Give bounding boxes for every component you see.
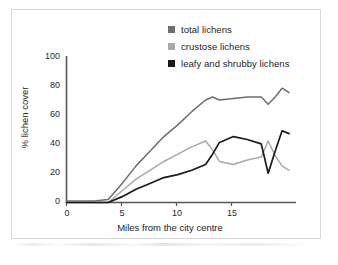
y-tick-label-0: 0 xyxy=(36,196,60,206)
y-tick-label-100: 100 xyxy=(36,51,60,61)
legend-swatch-total-lichens xyxy=(168,26,175,33)
series-line-crustose-lichens xyxy=(67,141,290,203)
legend-item-crustose-lichens: crustose lichens xyxy=(168,39,318,54)
x-tick-label-15: 15 xyxy=(222,208,242,218)
legend-item-leafy-and-shrubby-lichens: leafy and shrubby lichens xyxy=(168,56,318,71)
legend-item-total-lichens: total lichens xyxy=(168,22,318,37)
legend-label-crustose-lichens: crustose lichens xyxy=(181,41,250,52)
x-tick-label-5: 5 xyxy=(112,208,132,218)
y-tick-label-20: 20 xyxy=(36,167,60,177)
legend-label-total-lichens: total lichens xyxy=(181,24,232,35)
chart-legend: total lichens crustose lichens leafy and… xyxy=(168,22,318,73)
x-tick-label-10: 10 xyxy=(167,208,187,218)
y-tick-label-60: 60 xyxy=(36,109,60,119)
y-tick-label-40: 40 xyxy=(36,138,60,148)
x-axis-title: Miles from the city centre xyxy=(60,222,280,233)
y-tick-label-80: 80 xyxy=(36,80,60,90)
legend-swatch-crustose-lichens xyxy=(168,43,175,50)
legend-swatch-leafy-and-shrubby-lichens xyxy=(168,60,175,67)
series-line-leafy-and-shrubby-lichens xyxy=(67,131,290,203)
figure: 100 80 60 40 20 0 0 5 10 15 % lichen cov… xyxy=(0,0,338,265)
scan-smudge xyxy=(14,243,314,246)
y-axis-title: % lichen cover xyxy=(19,73,30,163)
series-layer xyxy=(67,88,290,202)
x-tick-label-0: 0 xyxy=(57,208,77,218)
legend-label-leafy-and-shrubby-lichens: leafy and shrubby lichens xyxy=(181,58,289,69)
series-line-total-lichens xyxy=(67,88,290,201)
